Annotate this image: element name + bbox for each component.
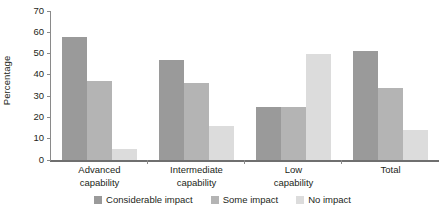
category-label-line: Low xyxy=(245,164,342,177)
bar xyxy=(112,149,137,160)
y-axis-tick-label: 30 xyxy=(33,90,44,102)
category-label-line: Total xyxy=(342,164,439,177)
plot-area: 010203040506070 xyxy=(51,11,439,160)
bar-chart: Percentage 010203040506070 Advancedcapab… xyxy=(0,0,445,213)
legend-swatch-icon xyxy=(211,196,219,204)
bar xyxy=(281,107,306,160)
category-label-line: capability xyxy=(51,177,148,190)
category-label-line: Intermediate xyxy=(148,164,245,177)
x-axis-category-label: Lowcapability xyxy=(245,164,342,192)
bar xyxy=(184,83,209,160)
bar-group-bars xyxy=(342,11,439,160)
y-axis-label-text: Percentage xyxy=(2,55,13,105)
category-label-line: Advanced xyxy=(51,164,148,177)
bar-group-bars xyxy=(245,11,342,160)
x-axis-category-label: Intermediatecapability xyxy=(148,164,245,192)
bar xyxy=(159,60,184,160)
bar xyxy=(306,54,331,160)
legend-item[interactable]: No impact xyxy=(296,194,351,206)
bar-group xyxy=(342,11,439,160)
y-axis-label: Percentage xyxy=(0,0,14,160)
bar xyxy=(256,107,281,160)
y-axis-tick-label: 50 xyxy=(33,47,44,59)
bar-group xyxy=(245,11,342,160)
bar-group xyxy=(148,11,245,160)
legend-label: Some impact xyxy=(223,194,278,206)
legend-swatch-icon xyxy=(94,196,102,204)
bar xyxy=(87,81,112,160)
y-axis-tick-label: 20 xyxy=(33,111,44,123)
bar xyxy=(62,37,87,160)
legend-item[interactable]: Some impact xyxy=(211,194,278,206)
bar xyxy=(353,51,378,160)
x-axis-category-labels: AdvancedcapabilityIntermediatecapability… xyxy=(51,164,439,192)
x-axis-category-label: Total xyxy=(342,164,439,192)
bar xyxy=(378,88,403,160)
bar-group-bars xyxy=(148,11,245,160)
legend-swatch-icon xyxy=(296,196,304,204)
bar-groups xyxy=(51,11,439,160)
y-axis-tick-label: 0 xyxy=(39,154,44,166)
y-axis-tick-label: 60 xyxy=(33,26,44,38)
bar-group xyxy=(51,11,148,160)
chart-legend: Considerable impactSome impactNo impact xyxy=(0,194,445,206)
bar xyxy=(209,126,234,160)
legend-label: Considerable impact xyxy=(106,194,193,206)
y-axis-tick-label: 70 xyxy=(33,5,44,17)
category-label-line: capability xyxy=(148,177,245,190)
x-axis-category-label: Advancedcapability xyxy=(51,164,148,192)
legend-label: No impact xyxy=(308,194,351,206)
bar-group-bars xyxy=(51,11,148,160)
bar xyxy=(403,130,428,160)
legend-item[interactable]: Considerable impact xyxy=(94,194,193,206)
category-label-line: capability xyxy=(245,177,342,190)
y-axis-tick-label: 10 xyxy=(33,132,44,144)
y-axis-tick-label: 40 xyxy=(33,68,44,80)
